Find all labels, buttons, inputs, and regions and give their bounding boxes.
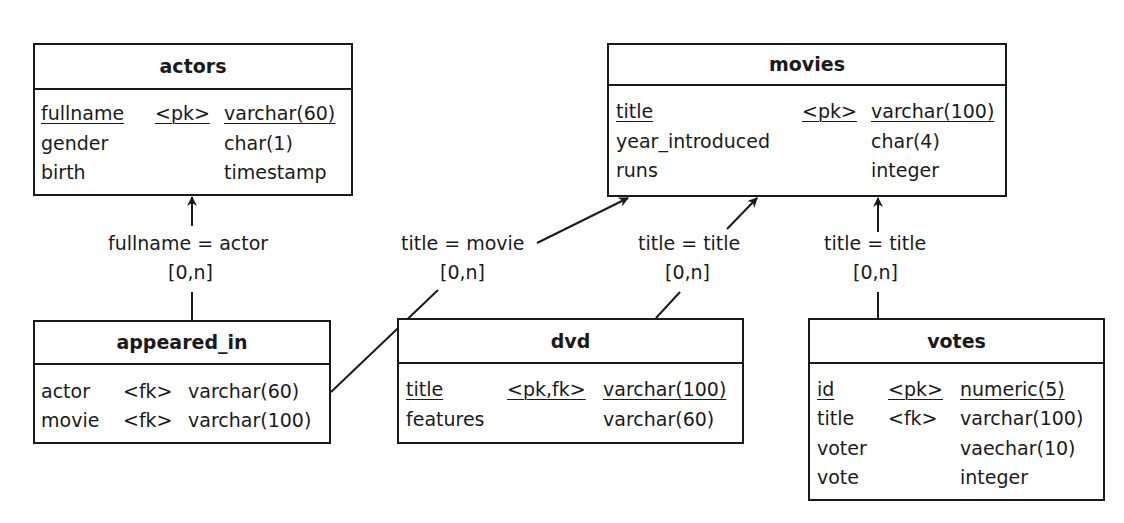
relationship-cardinality-label: [0,n] xyxy=(168,261,213,283)
column-type: vaechar(10) xyxy=(960,437,1076,459)
column-name: year_introduced xyxy=(616,130,770,152)
entity-title: movies xyxy=(609,45,1005,86)
column-name: fullname xyxy=(41,102,124,124)
relationship-join-label: title = title xyxy=(824,232,926,254)
column-name: title xyxy=(817,407,854,429)
column-type: varchar(100) xyxy=(603,378,726,400)
relationship-join-label: title = movie xyxy=(401,232,525,254)
column-name: birth xyxy=(41,161,86,183)
column-key: <fk> xyxy=(123,409,173,431)
column-type: timestamp xyxy=(224,161,327,183)
entity-movies: movies title <pk> varchar(100) year_intr… xyxy=(607,43,1007,197)
entity-title: dvd xyxy=(399,320,742,364)
column-name: voter xyxy=(817,437,867,459)
entity-title: actors xyxy=(35,45,351,90)
link-dvd-movies-lower xyxy=(656,292,680,318)
column-key: <fk> xyxy=(123,380,173,402)
relationship-cardinality-label: [0,n] xyxy=(853,261,898,283)
column-type: char(4) xyxy=(871,130,940,152)
entity-title: appeared_in xyxy=(35,322,329,365)
column-name: id xyxy=(817,378,834,400)
entity-title: votes xyxy=(810,320,1103,364)
column-type: integer xyxy=(871,159,939,181)
column-type: varchar(60) xyxy=(188,380,299,402)
relationship-join-label: fullname = actor xyxy=(108,232,268,254)
column-name: movie xyxy=(41,409,99,431)
column-name: vote xyxy=(817,466,859,488)
column-name: title xyxy=(616,100,653,122)
entity-votes: votes id <pk> numeric(5) title <fk> varc… xyxy=(808,318,1105,501)
column-name: gender xyxy=(41,132,108,154)
column-type: varchar(100) xyxy=(871,100,994,122)
relationship-cardinality-label: [0,n] xyxy=(665,261,710,283)
entity-actors: actors fullname <pk> varchar(60) gender … xyxy=(33,43,353,196)
column-type: varchar(60) xyxy=(603,408,714,430)
entity-dvd: dvd title <pk,fk> varchar(100) features … xyxy=(397,318,744,444)
link-appeared-in-movies-upper xyxy=(537,198,628,243)
relationship-cardinality-label: [0,n] xyxy=(440,261,485,283)
column-key: <pk,fk> xyxy=(507,378,586,400)
column-name: actor xyxy=(41,380,90,402)
column-key: <fk> xyxy=(888,407,938,429)
link-dvd-movies-upper xyxy=(727,198,757,229)
column-key: <pk> xyxy=(888,378,943,400)
column-type: numeric(5) xyxy=(960,378,1065,400)
column-key: <pk> xyxy=(802,100,857,122)
column-type: integer xyxy=(960,466,1028,488)
entity-appeared-in: appeared_in actor <fk> varchar(60) movie… xyxy=(33,320,331,444)
column-name: features xyxy=(406,408,485,430)
column-type: varchar(100) xyxy=(188,409,311,431)
column-name: title xyxy=(406,378,443,400)
column-type: varchar(100) xyxy=(960,407,1083,429)
column-type: varchar(60) xyxy=(224,102,335,124)
column-type: char(1) xyxy=(224,132,293,154)
relationship-join-label: title = title xyxy=(638,232,740,254)
column-name: runs xyxy=(616,159,658,181)
column-key: <pk> xyxy=(155,102,210,124)
